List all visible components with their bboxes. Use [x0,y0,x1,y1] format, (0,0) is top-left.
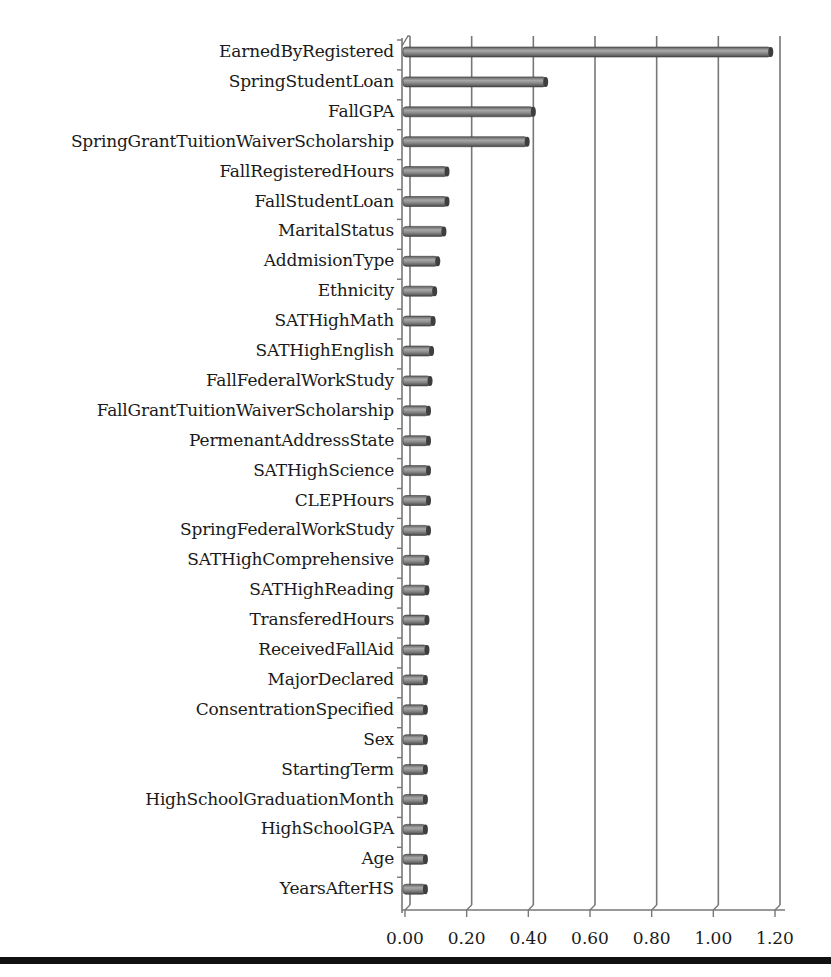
category-label: HighSchoolGraduationMonth [145,789,394,809]
category-label: SpringGrantTuitionWaiverScholarship [71,131,394,151]
category-label: SATHighScience [253,460,394,480]
category-label: HighSchoolGPA [261,818,394,838]
bar [403,256,438,266]
x-tick-label: 1.00 [683,928,743,948]
bar [403,795,425,805]
bar [403,675,425,685]
bar [403,77,546,87]
category-label: SATHighMath [274,310,394,330]
bar [403,226,444,236]
x-tick-label: 0.80 [622,928,682,948]
bar [403,496,429,506]
category-label: CLEPHours [295,490,394,510]
x-tick-label: 0.60 [560,928,620,948]
bar [403,466,429,476]
bar [403,167,447,177]
bar [403,346,432,356]
category-label: Age [361,848,394,868]
bar [403,585,427,595]
category-label: FallStudentLoan [255,191,394,211]
feature-importance-chart: EarnedByRegisteredSpringStudentLoanFallG… [0,0,831,977]
category-label: FallFederalWorkStudy [206,370,394,390]
x-tick-label: 1.20 [745,928,805,948]
bar [403,197,447,207]
bar [403,884,425,894]
category-label: MajorDeclared [268,669,394,689]
bar [403,615,427,625]
bar [403,137,527,147]
bar [403,107,533,117]
category-label: SpringFederalWorkStudy [180,519,394,539]
category-label: EarnedByRegistered [219,41,394,61]
category-label: MaritalStatus [278,220,394,240]
category-label: YearsAfterHS [280,878,394,898]
bar [403,705,425,715]
bar [403,735,425,745]
category-label: SATHighReading [249,579,394,599]
bar [403,406,429,416]
category-label: SATHighEnglish [256,340,394,360]
bar [403,47,771,57]
bar [403,555,427,565]
bar [403,316,433,326]
bar [403,525,429,535]
bottom-rule [0,957,831,964]
category-label: Sex [363,729,394,749]
bar [403,645,427,655]
category-label: SATHighComprehensive [187,549,394,569]
category-label: ReceivedFallAid [258,639,394,659]
bar [403,436,429,446]
category-label: PermenantAddressState [189,430,394,450]
category-label: SpringStudentLoan [229,71,394,91]
bar [403,376,430,386]
x-tick-label: 0.20 [437,928,497,948]
bar [403,765,425,775]
category-label: StartingTerm [281,759,394,779]
x-tick-label: 0.00 [375,928,435,948]
category-label: TransferedHours [249,609,394,629]
category-label: ConsentrationSpecified [196,699,394,719]
category-label: FallRegisteredHours [219,161,394,181]
category-label: AddmisionType [264,250,394,270]
bar [403,824,425,834]
category-label: FallGPA [328,101,394,121]
bar [403,854,425,864]
category-label: FallGrantTuitionWaiverScholarship [97,400,394,420]
category-label: Ethnicity [318,280,394,300]
x-tick-label: 0.40 [498,928,558,948]
bar [403,286,435,296]
